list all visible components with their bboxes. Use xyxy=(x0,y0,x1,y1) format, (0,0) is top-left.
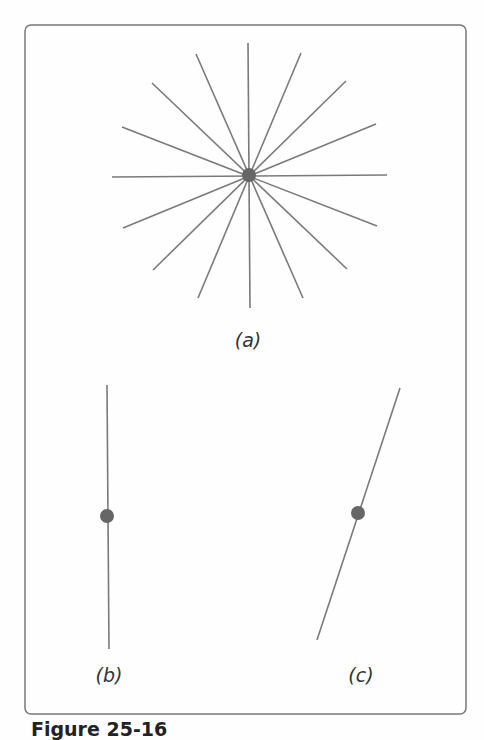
panel-c-label: (c) xyxy=(348,664,373,686)
point-dot xyxy=(242,168,256,182)
figure-frame xyxy=(25,25,466,714)
point-dot xyxy=(100,509,114,523)
panel-a-label: (a) xyxy=(235,329,261,351)
panel-c-tilted-line xyxy=(317,388,400,640)
panel-a-star xyxy=(112,43,387,308)
panel-b-vertical-line xyxy=(100,385,114,649)
panel-b-label: (b) xyxy=(96,664,123,686)
point-dot xyxy=(351,506,365,520)
figure-caption: Figure 25-16 xyxy=(31,718,167,740)
